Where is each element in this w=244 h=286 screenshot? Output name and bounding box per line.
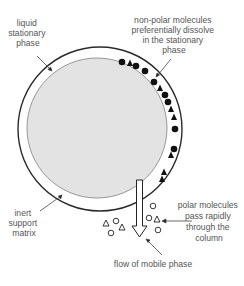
open-circle-icon xyxy=(155,227,161,233)
filled-circle-icon xyxy=(162,92,169,99)
open-circle-icon xyxy=(146,215,152,221)
open-triangle-icon xyxy=(119,224,125,230)
open-circle-icon xyxy=(108,230,114,236)
leader-mobile-phase xyxy=(147,240,162,255)
filled-circle-icon xyxy=(172,126,179,133)
filled-circle-icon xyxy=(142,68,149,75)
open-circle-icon xyxy=(113,218,119,224)
chromatography-diagram: liquid stationary phase non-polar molecu… xyxy=(0,0,244,286)
label-flow-of-mobile-phase: flow of mobile phase xyxy=(114,259,193,269)
filled-circle-icon xyxy=(119,59,126,66)
label-liquid-stationary-phase: liquid stationary phase xyxy=(8,18,48,48)
leader-inert-support xyxy=(40,196,61,211)
label-non-polar-molecules: non-polar molecules preferentially disso… xyxy=(131,15,216,55)
open-circle-icon xyxy=(150,203,156,209)
arrowhead-icon xyxy=(162,219,166,223)
filled-circle-icon xyxy=(133,63,140,70)
filled-circle-icon xyxy=(171,146,178,153)
label-polar-molecules: polar molecules pass rapidly through the… xyxy=(178,200,241,243)
filled-circle-icon xyxy=(165,99,172,106)
leader-non-polar xyxy=(157,59,171,76)
filled-circle-icon xyxy=(151,79,158,86)
label-inert-support-matrix: inert support matrix xyxy=(8,208,39,238)
inert-support-matrix xyxy=(27,58,167,198)
open-triangle-icon xyxy=(103,220,109,226)
open-triangle-icon xyxy=(154,216,160,222)
leader-stationary-phase xyxy=(37,56,51,70)
